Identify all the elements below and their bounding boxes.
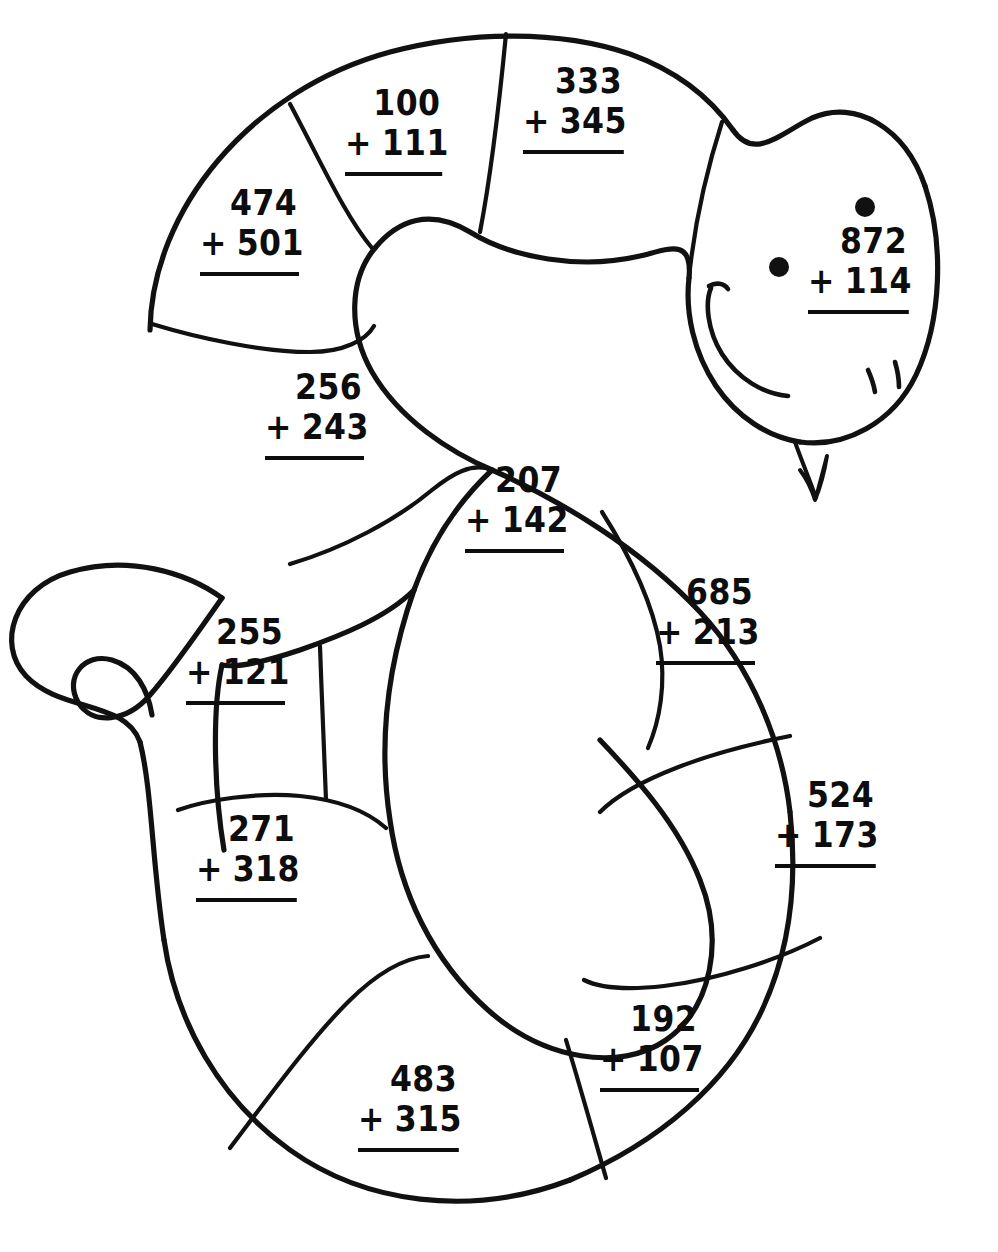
sum-rule bbox=[358, 1148, 459, 1152]
tongue-icon bbox=[795, 442, 827, 500]
snake-neck-top bbox=[733, 112, 925, 186]
problem-block: 333 +345 bbox=[523, 62, 624, 154]
addend-bottom: +315 bbox=[358, 1100, 459, 1140]
operator: + bbox=[196, 850, 223, 890]
addend-bottom: +345 bbox=[523, 102, 624, 142]
operator: + bbox=[265, 408, 292, 448]
addend-bottom: +111 bbox=[345, 124, 442, 164]
addend-top: 207 bbox=[465, 461, 564, 501]
snake-inner-coil-upper bbox=[355, 248, 492, 470]
problem-block: 100 +111 bbox=[345, 84, 442, 176]
operator: + bbox=[200, 224, 227, 264]
problem-block: 524 +173 bbox=[775, 776, 876, 868]
sum-rule bbox=[465, 549, 564, 553]
operator: + bbox=[808, 262, 835, 302]
addend-top: 256 bbox=[265, 368, 364, 408]
problem-block: 256 +243 bbox=[265, 368, 364, 460]
sum-rule bbox=[600, 1088, 699, 1092]
nostril-right-icon bbox=[895, 362, 899, 387]
operator: + bbox=[775, 816, 802, 856]
snake-figure bbox=[0, 0, 998, 1252]
addend-bottom: +213 bbox=[656, 613, 755, 653]
problem-block: 192 +107 bbox=[600, 1000, 699, 1092]
sum-rule bbox=[200, 272, 299, 276]
addend-bottom-value: 501 bbox=[237, 223, 304, 263]
addend-bottom-value: 315 bbox=[395, 1099, 462, 1139]
addend-bottom-value: 142 bbox=[502, 500, 569, 540]
snake-right-outer bbox=[570, 812, 793, 1180]
worksheet-page: 100 +111 333 +345 872 +114 474 +501 256 … bbox=[0, 0, 998, 1252]
operator: + bbox=[345, 124, 372, 164]
sum-rule bbox=[656, 661, 755, 665]
addend-top: 255 bbox=[186, 613, 285, 653]
addend-top: 333 bbox=[523, 62, 624, 102]
divider-6 bbox=[602, 512, 662, 748]
addend-bottom: +173 bbox=[775, 816, 876, 856]
addend-bottom-value: 243 bbox=[302, 407, 369, 447]
snake-neck-under bbox=[375, 219, 689, 278]
smile-icon bbox=[708, 288, 788, 396]
problem-block: 872 +114 bbox=[808, 222, 909, 314]
sum-rule bbox=[196, 898, 297, 902]
divider-9 bbox=[320, 646, 326, 800]
problem-block: 474 +501 bbox=[200, 184, 299, 276]
divider-3 bbox=[689, 122, 722, 278]
addend-bottom: +107 bbox=[600, 1040, 699, 1080]
divider-4 bbox=[152, 324, 374, 352]
divider-5 bbox=[290, 467, 492, 564]
addend-bottom-value: 111 bbox=[382, 123, 449, 163]
addend-bottom-value: 213 bbox=[693, 612, 760, 652]
addend-bottom-value: 318 bbox=[233, 849, 300, 889]
problem-block: 271 +318 bbox=[196, 810, 297, 902]
operator: + bbox=[358, 1100, 385, 1140]
addend-top: 192 bbox=[600, 1000, 699, 1040]
addend-bottom: +501 bbox=[200, 224, 299, 264]
operator: + bbox=[523, 102, 550, 142]
addend-bottom: +142 bbox=[465, 501, 564, 541]
sum-rule bbox=[775, 864, 876, 868]
right-eye-icon bbox=[855, 197, 875, 217]
addend-bottom: +318 bbox=[196, 850, 297, 890]
addend-top: 100 bbox=[345, 84, 442, 124]
operator: + bbox=[600, 1040, 627, 1080]
problem-block: 685 +213 bbox=[656, 573, 755, 665]
sum-rule bbox=[265, 456, 364, 460]
addend-top: 685 bbox=[656, 573, 755, 613]
addend-bottom-value: 345 bbox=[560, 101, 627, 141]
addend-bottom: +114 bbox=[808, 262, 909, 302]
addend-top: 872 bbox=[808, 222, 909, 262]
sum-rule bbox=[186, 701, 285, 705]
sum-rule bbox=[345, 172, 442, 176]
addend-bottom-value: 173 bbox=[812, 815, 879, 855]
addend-bottom: +243 bbox=[265, 408, 364, 448]
operator: + bbox=[186, 653, 213, 693]
addend-bottom: +121 bbox=[186, 653, 285, 693]
operator: + bbox=[465, 501, 492, 541]
problem-block: 483 +315 bbox=[358, 1060, 459, 1152]
addend-top: 524 bbox=[775, 776, 876, 816]
divider-2 bbox=[480, 34, 506, 232]
operator: + bbox=[656, 613, 683, 653]
nostril-left-icon bbox=[868, 370, 875, 392]
addend-top: 474 bbox=[200, 184, 299, 224]
problem-block: 207 +142 bbox=[465, 461, 564, 553]
snake-inner-belly bbox=[385, 470, 712, 1058]
sum-rule bbox=[808, 310, 909, 314]
addend-bottom-value: 121 bbox=[223, 652, 290, 692]
addend-bottom-value: 114 bbox=[845, 261, 912, 301]
addend-top: 483 bbox=[358, 1060, 459, 1100]
problem-block: 255 +121 bbox=[186, 613, 285, 705]
snake-head-jaw bbox=[688, 278, 800, 442]
snake-left-outer bbox=[140, 742, 164, 940]
addend-top: 271 bbox=[196, 810, 297, 850]
addend-bottom-value: 107 bbox=[637, 1039, 704, 1079]
left-eye-icon bbox=[769, 257, 789, 277]
sum-rule bbox=[523, 150, 624, 154]
